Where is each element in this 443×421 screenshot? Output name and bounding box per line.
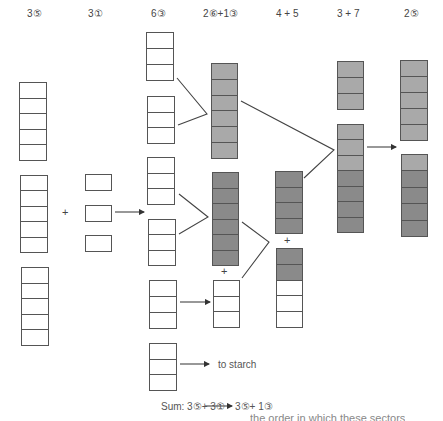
sum-equation-left: Sum: 3⑤+ 3① — [161, 401, 225, 412]
connector-lines — [0, 0, 443, 421]
cropped-body-text: the order in which these sectors — [250, 412, 405, 421]
to-starch-label: to starch — [218, 359, 256, 370]
sum-equation-right: 3⑤+ 1③ — [235, 401, 273, 412]
